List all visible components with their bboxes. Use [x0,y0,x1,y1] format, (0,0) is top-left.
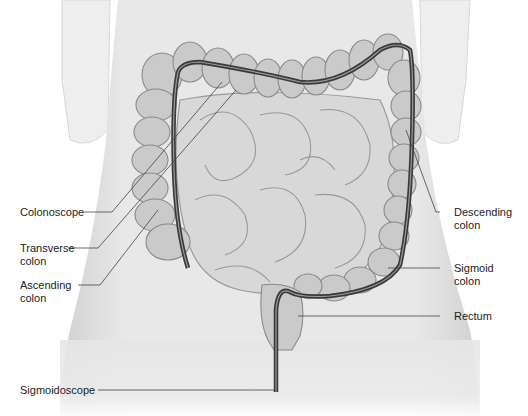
label-ascending-colon: Ascending colon [20,279,71,305]
arm-left [62,0,110,143]
label-sigmoid-colon: Sigmoid colon [454,262,494,288]
anatomy-diagram: Colonoscope Transverse colon Ascending c… [0,0,528,416]
label-colonoscope: Colonoscope [20,206,84,219]
label-sigmoidoscope: Sigmoidoscope [20,384,95,397]
label-descending-colon: Descending colon [454,206,512,232]
label-rectum: Rectum [454,310,492,323]
small-intestine [176,93,394,295]
label-transverse-colon: Transverse colon [20,242,75,268]
arm-right [420,0,470,144]
